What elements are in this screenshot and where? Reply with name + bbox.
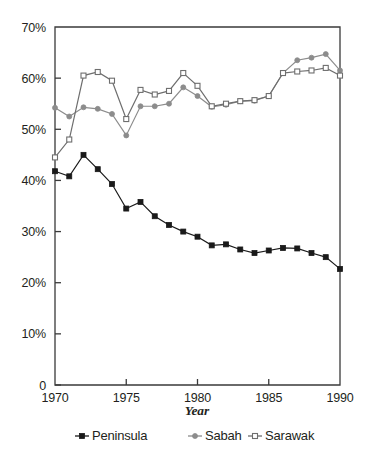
data-point bbox=[338, 266, 343, 271]
legend-item-sabah[interactable]: Sabah bbox=[188, 428, 242, 443]
y-tick-label: 60% bbox=[22, 72, 47, 86]
data-point bbox=[323, 255, 328, 260]
y-tick-label: 70% bbox=[22, 21, 47, 35]
data-point bbox=[181, 71, 186, 76]
chart-container: 010%20%30%40%50%60%70% 19701975198019851… bbox=[0, 0, 370, 460]
data-point bbox=[209, 104, 214, 109]
legend-marker-sarawak bbox=[253, 434, 258, 439]
data-point bbox=[67, 174, 72, 179]
y-tick-label: 50% bbox=[22, 123, 47, 137]
x-tick-label: 1975 bbox=[113, 391, 140, 405]
y-tick-label: 40% bbox=[22, 174, 47, 188]
data-point bbox=[266, 248, 271, 253]
y-tick-label: 10% bbox=[22, 327, 47, 341]
data-point bbox=[81, 73, 86, 78]
series-sabah bbox=[53, 52, 343, 138]
data-point bbox=[81, 152, 86, 157]
data-point bbox=[95, 167, 100, 172]
series-line-sarawak bbox=[55, 68, 340, 158]
data-point bbox=[224, 101, 229, 106]
data-point bbox=[167, 88, 172, 93]
series-peninsula bbox=[53, 152, 343, 271]
data-point bbox=[209, 243, 214, 248]
data-point bbox=[195, 83, 200, 88]
data-point bbox=[124, 206, 129, 211]
data-point bbox=[110, 111, 115, 116]
legend-item-peninsula[interactable]: Peninsula bbox=[75, 428, 148, 443]
data-point bbox=[152, 104, 157, 109]
data-point bbox=[152, 214, 157, 219]
data-point bbox=[295, 69, 300, 74]
data-point bbox=[295, 58, 300, 63]
data-point bbox=[67, 114, 72, 119]
data-point bbox=[181, 229, 186, 234]
x-tick-label: 1990 bbox=[326, 391, 353, 405]
x-axis-title: Year bbox=[185, 403, 210, 418]
data-point bbox=[238, 247, 243, 252]
data-point bbox=[110, 182, 115, 187]
data-point bbox=[167, 101, 172, 106]
data-point bbox=[81, 105, 86, 110]
data-point bbox=[95, 70, 100, 75]
data-point bbox=[124, 133, 129, 138]
legend-label-peninsula: Peninsula bbox=[92, 428, 148, 443]
line-chart: 010%20%30%40%50%60%70% 19701975198019851… bbox=[0, 0, 370, 460]
data-point bbox=[323, 65, 328, 70]
data-point bbox=[138, 199, 143, 204]
y-tick-label: 30% bbox=[22, 225, 47, 239]
legend-item-sarawak[interactable]: Sarawak bbox=[248, 428, 315, 443]
data-point bbox=[138, 87, 143, 92]
x-tick-label: 1985 bbox=[255, 391, 282, 405]
data-point bbox=[252, 251, 257, 256]
data-point bbox=[110, 78, 115, 83]
data-point bbox=[195, 234, 200, 239]
series-sarawak bbox=[53, 65, 343, 160]
data-point bbox=[53, 169, 58, 174]
data-point bbox=[281, 245, 286, 250]
data-point bbox=[295, 246, 300, 251]
data-point bbox=[309, 251, 314, 256]
data-point bbox=[281, 71, 286, 76]
data-point bbox=[338, 73, 343, 78]
data-point bbox=[124, 117, 129, 122]
plot-frame bbox=[55, 27, 340, 385]
x-tick-label: 1970 bbox=[41, 391, 68, 405]
data-point bbox=[95, 106, 100, 111]
data-point bbox=[252, 98, 257, 103]
data-point bbox=[53, 155, 58, 160]
data-point bbox=[195, 94, 200, 99]
x-axis: 19701975198019851990 bbox=[41, 379, 353, 405]
data-point bbox=[53, 105, 58, 110]
data-point bbox=[224, 242, 229, 247]
data-point bbox=[309, 68, 314, 73]
data-point bbox=[152, 92, 157, 97]
data-point bbox=[138, 104, 143, 109]
data-point bbox=[323, 52, 328, 57]
legend-label-sarawak: Sarawak bbox=[265, 428, 315, 443]
data-point bbox=[181, 85, 186, 90]
y-tick-label: 20% bbox=[22, 276, 47, 290]
data-point bbox=[266, 94, 271, 99]
legend-marker-peninsula bbox=[80, 434, 85, 439]
data-point bbox=[238, 99, 243, 104]
chart-legend: PeninsulaSabahSarawak bbox=[75, 428, 315, 443]
data-point bbox=[338, 68, 343, 73]
data-point bbox=[309, 55, 314, 60]
legend-label-sabah: Sabah bbox=[205, 428, 242, 443]
series-layer bbox=[53, 52, 343, 272]
data-point bbox=[167, 222, 172, 227]
legend-marker-sabah bbox=[193, 434, 198, 439]
data-point bbox=[67, 137, 72, 142]
